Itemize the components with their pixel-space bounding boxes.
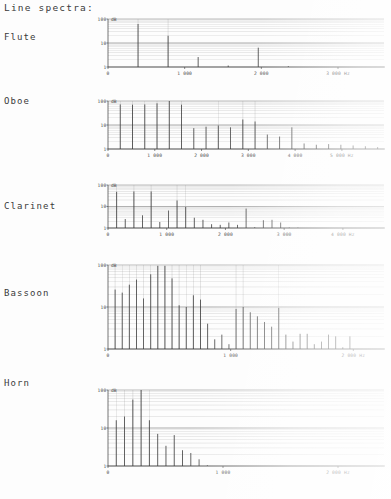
instrument-label-oboe: Oboe [4, 96, 30, 106]
spectrum-plot: 110100dB01 0002 000 Hz [96, 260, 386, 374]
svg-text:0: 0 [107, 232, 110, 237]
svg-text:dB: dB [111, 263, 117, 268]
svg-text:100: 100 [98, 183, 107, 188]
spectrum-chart-bassoon: 110100dB01 0002 000 Hz [96, 260, 386, 374]
svg-text:4 000 Hz: 4 000 Hz [331, 232, 355, 237]
svg-text:dB: dB [111, 17, 117, 22]
spectrum-chart-flute: 110100dB01 0002 0003 000 Hz [96, 14, 386, 92]
instrument-label-bassoon: Bassoon [4, 288, 50, 298]
spectrum-plot: 110100dB01 0002 0003 0004 000 Hz [96, 180, 386, 253]
svg-text:1 000: 1 000 [223, 353, 238, 358]
x-tick-labels: 01 0002 000 Hz [107, 466, 350, 475]
svg-text:3 000 Hz: 3 000 Hz [326, 71, 350, 76]
svg-text:1: 1 [104, 226, 107, 231]
svg-text:2 000: 2 000 [218, 232, 233, 237]
svg-text:1: 1 [104, 347, 107, 352]
svg-text:2 000: 2 000 [254, 71, 269, 76]
instrument-label-flute: Flute [4, 32, 37, 42]
svg-text:dB: dB [111, 99, 117, 104]
instrument-label-clarinet: Clarinet [4, 201, 56, 211]
svg-text:dB: dB [111, 388, 117, 393]
svg-text:0: 0 [107, 470, 110, 475]
svg-text:5 000 Hz: 5 000 Hz [330, 153, 354, 158]
instrument-label-horn: Horn [4, 378, 30, 388]
svg-text:100: 100 [98, 263, 107, 268]
svg-text:1 000: 1 000 [147, 153, 162, 158]
svg-text:0: 0 [107, 153, 110, 158]
x-tick-labels: 01 0002 0003 0004 000 Hz [107, 228, 355, 237]
x-tick-labels: 01 0002 0003 0004 0005 000 Hz [107, 149, 354, 158]
svg-text:10: 10 [101, 204, 107, 209]
svg-text:100: 100 [98, 388, 107, 393]
x-tick-labels: 01 0002 000 Hz [107, 349, 366, 358]
svg-text:100: 100 [98, 99, 107, 104]
svg-text:3 000: 3 000 [277, 232, 292, 237]
svg-text:dB: dB [111, 183, 117, 188]
spectrum-chart-clarinet: 110100dB01 0002 0003 0004 000 Hz [96, 180, 386, 253]
svg-text:1 000: 1 000 [216, 470, 231, 475]
svg-text:1: 1 [104, 464, 107, 469]
svg-text:1 000: 1 000 [159, 232, 174, 237]
svg-text:0: 0 [107, 71, 110, 76]
svg-text:2 000: 2 000 [194, 153, 209, 158]
svg-text:4 000: 4 000 [288, 153, 303, 158]
svg-text:2 000 Hz: 2 000 Hz [341, 353, 365, 358]
svg-text:1: 1 [104, 147, 107, 152]
svg-text:0: 0 [107, 353, 110, 358]
svg-text:10: 10 [101, 41, 107, 46]
svg-text:100: 100 [98, 17, 107, 22]
svg-text:1 000: 1 000 [177, 71, 192, 76]
horizontal-gridlines [108, 19, 384, 67]
spectrum-chart-horn: 110100dB01 0002 000 Hz [96, 385, 386, 491]
horizontal-gridlines [108, 101, 384, 149]
svg-text:2 000 Hz: 2 000 Hz [326, 470, 350, 475]
svg-text:10: 10 [101, 123, 107, 128]
page-title: Line spectra: [4, 2, 94, 13]
svg-text:3 000: 3 000 [241, 153, 256, 158]
spectrum-chart-oboe: 110100dB01 0002 0003 0004 0005 000 Hz [96, 96, 386, 174]
svg-text:10: 10 [101, 305, 107, 310]
svg-text:10: 10 [101, 426, 107, 431]
spectrum-plot: 110100dB01 0002 000 Hz [96, 385, 386, 491]
x-tick-labels: 01 0002 0003 000 Hz [107, 67, 350, 76]
spectrum-plot: 110100dB01 0002 0003 000 Hz [96, 14, 386, 92]
horizontal-gridlines [108, 265, 384, 349]
svg-text:1: 1 [104, 65, 107, 70]
spectrum-plot: 110100dB01 0002 0003 0004 0005 000 Hz [96, 96, 386, 174]
